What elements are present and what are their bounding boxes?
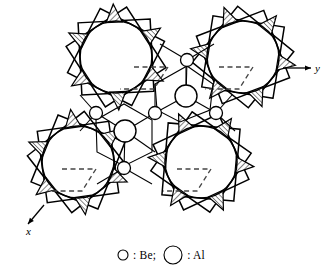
al-center-upper: [175, 85, 197, 107]
cluster-bottom-right-al-circle: [165, 126, 237, 198]
legend-item-al: : Al: [162, 244, 205, 266]
y-axis-label: y: [314, 62, 320, 74]
cluster-top-left: [66, 4, 168, 110]
x-axis-label: x: [25, 225, 31, 237]
al-circle-icon: [162, 244, 184, 266]
x-axis: x: [25, 205, 44, 237]
cluster-top-left-al-circle: [80, 21, 152, 93]
be-mid-center: [149, 107, 162, 120]
cluster-bottom-left: [27, 109, 128, 214]
crystal-structure-diagram: yx: [0, 0, 321, 240]
be-mid-right: [210, 107, 223, 120]
be-bottom-center: [118, 162, 131, 175]
cluster-bottom-left-al-circle: [42, 126, 114, 198]
legend-label-al: : Al: [187, 249, 205, 261]
be-top-center: [181, 54, 194, 67]
figure-root: yx : Be; : Al: [0, 0, 321, 272]
al-center-lower: [114, 120, 136, 142]
cluster-top-right: [191, 6, 296, 107]
legend-item-be: : Be;: [116, 248, 156, 262]
y-axis-arrowhead: [305, 65, 311, 70]
be-circle-icon: [116, 248, 130, 262]
legend: : Be; : Al: [0, 238, 321, 272]
cluster-bottom-right: [148, 112, 254, 212]
be-mid-left: [90, 107, 103, 120]
legend-label-be: : Be;: [133, 249, 156, 261]
